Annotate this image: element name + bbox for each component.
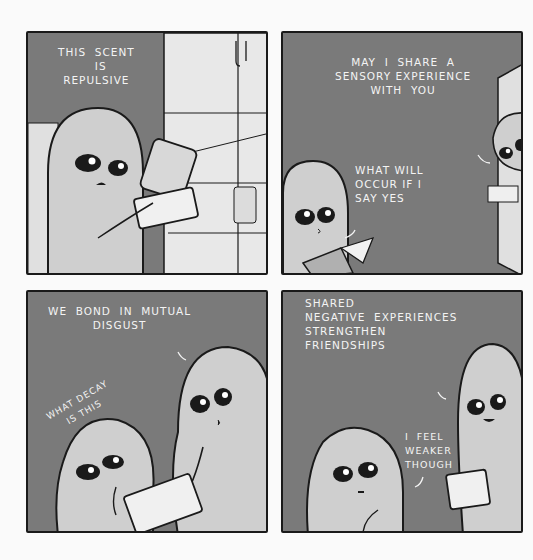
speech-text: THIS SCENT IS REPULSIVE: [58, 45, 135, 87]
speech-text-reading-alien: WHAT WILL OCCUR IF I SAY YES: [355, 163, 424, 205]
comic-panel-3: WE BOND IN MUTUAL DISGUST WHAT DECAY IS …: [26, 290, 268, 533]
speech-text-door-alien: MAY I SHARE A SENSORY EXPERIENCE WITH YO…: [335, 55, 471, 97]
comic-panel-1: THIS SCENT IS REPULSIVE: [26, 31, 268, 275]
speech-text-small-alien: I FEEL WEAKER THOUGH: [405, 430, 453, 472]
comic-panel-4: SHARED NEGATIVE EXPERIENCES STRENGTHEN F…: [281, 290, 523, 533]
speech-text-tall-alien: SHARED NEGATIVE EXPERIENCES STRENGTHEN F…: [305, 296, 457, 352]
comic-panel-2: MAY I SHARE A SENSORY EXPERIENCE WITH YO…: [281, 31, 523, 275]
speech-text-tall-alien: WE BOND IN MUTUAL DISGUST: [48, 304, 191, 332]
